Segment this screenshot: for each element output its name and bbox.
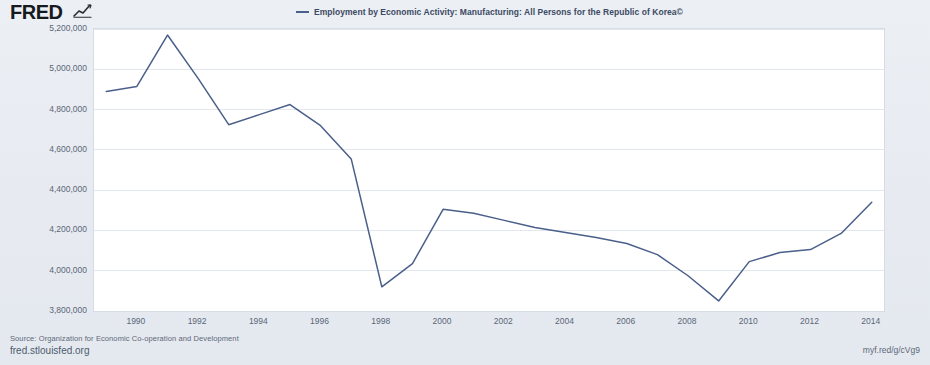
chart-legend: Employment by Economic Activity: Manufac… (296, 7, 683, 17)
fred-chart-graphic: FRED Employment by Economic Activity: Ma… (0, 0, 930, 365)
fred-site-url: fred.stlouisfed.org (10, 345, 90, 356)
x-axis-tick: 2012 (800, 316, 819, 326)
y-axis-tick: 4,400,000 (25, 184, 87, 194)
short-url: myf.red/g/cVg9 (863, 345, 920, 355)
plot-area (93, 28, 885, 312)
x-axis-tick: 2002 (494, 316, 513, 326)
chart-header: FRED Employment by Economic Activity: Ma… (0, 0, 930, 26)
source-note: Source: Organization for Economic Co-ope… (10, 334, 239, 343)
y-axis-tick: 4,200,000 (25, 224, 87, 234)
x-axis-tick: 1992 (188, 316, 207, 326)
y-axis-tick: 3,800,000 (25, 305, 87, 315)
y-axis-tick: 5,000,000 (25, 63, 87, 73)
x-axis-tick: 2006 (616, 316, 635, 326)
x-axis-tick: 1990 (126, 316, 145, 326)
y-axis-tick: 4,000,000 (25, 265, 87, 275)
legend-series-label: Employment by Economic Activity: Manufac… (314, 7, 683, 17)
x-axis-tick: 1998 (371, 316, 390, 326)
x-axis-tick: 1994 (249, 316, 268, 326)
x-axis-tick: 1996 (310, 316, 329, 326)
chart-line-icon (73, 4, 93, 18)
x-axis-tick: 2010 (739, 316, 758, 326)
y-axis-tick: 4,600,000 (25, 144, 87, 154)
x-axis-tick: 2014 (861, 316, 880, 326)
y-axis-tick: 4,800,000 (25, 104, 87, 114)
x-axis-tick: 2008 (678, 316, 697, 326)
y-axis-tick: 5,200,000 (25, 23, 87, 33)
series-plot (94, 29, 884, 311)
x-axis-tick: 2000 (433, 316, 452, 326)
x-axis-tick: 2004 (555, 316, 574, 326)
legend-color-swatch (296, 11, 309, 13)
fred-logo: FRED (10, 1, 62, 24)
